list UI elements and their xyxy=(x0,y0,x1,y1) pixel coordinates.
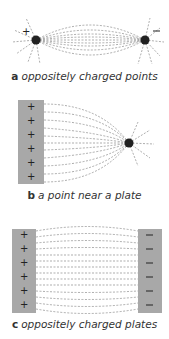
svg-text:+: + xyxy=(27,115,35,126)
panel-c-field-lines xyxy=(36,227,138,314)
negative-charge-point xyxy=(141,36,150,45)
caption-a-text: oppositely charged points xyxy=(21,70,157,82)
panel-a-left-sign: + xyxy=(22,26,30,37)
caption-b-letter: b xyxy=(28,189,36,201)
svg-text:+: + xyxy=(20,243,28,254)
caption-c-letter: c xyxy=(12,318,18,330)
svg-text:+: + xyxy=(27,101,35,112)
caption-c: coppositely charged plates xyxy=(0,318,169,330)
svg-text:+: + xyxy=(20,271,28,282)
caption-b-text: a point near a plate xyxy=(38,189,141,201)
caption-a-letter: a xyxy=(11,70,18,82)
svg-text:+: + xyxy=(27,129,35,140)
caption-c-text: oppositely charged plates xyxy=(21,318,157,330)
positive-charge-point xyxy=(32,36,41,45)
svg-text:+: + xyxy=(20,285,28,296)
caption-b: ba point near a plate xyxy=(0,189,169,201)
svg-text:+: + xyxy=(20,229,28,240)
svg-text:+: + xyxy=(20,299,28,310)
svg-text:+: + xyxy=(27,171,35,182)
svg-text:+: + xyxy=(27,143,35,154)
field-diagram: .fl{fill:none;stroke:#777;stroke-width:0… xyxy=(0,0,169,339)
negative-charge-point-b xyxy=(125,139,134,148)
caption-a: aoppositely charged points xyxy=(0,70,169,82)
svg-text:+: + xyxy=(27,157,35,168)
svg-text:+: + xyxy=(20,257,28,268)
negative-plate-c xyxy=(138,229,162,313)
panel-b-field-lines xyxy=(44,104,154,182)
